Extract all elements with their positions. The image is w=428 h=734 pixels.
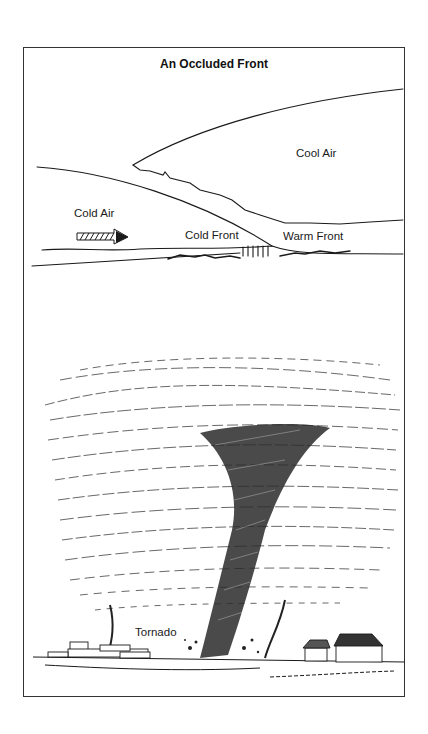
- label-cool-air: Cool Air: [296, 147, 336, 159]
- ground-lower: [32, 253, 240, 266]
- right-small-funnel: [265, 600, 285, 658]
- warm-front-lower-boundary: [133, 165, 403, 224]
- label-tornado: Tornado: [135, 626, 177, 638]
- town: [48, 642, 150, 658]
- illustration: [0, 0, 428, 734]
- label-warm-front: Warm Front: [283, 230, 343, 242]
- label-cold-front: Cold Front: [185, 229, 239, 241]
- warm-front-upper-boundary: [133, 89, 403, 165]
- tornado-funnel: [200, 424, 330, 658]
- label-cold-air: Cold Air: [74, 207, 114, 219]
- arrow-icon: [77, 229, 128, 244]
- houses: [303, 634, 383, 662]
- ground-upper: [42, 246, 403, 254]
